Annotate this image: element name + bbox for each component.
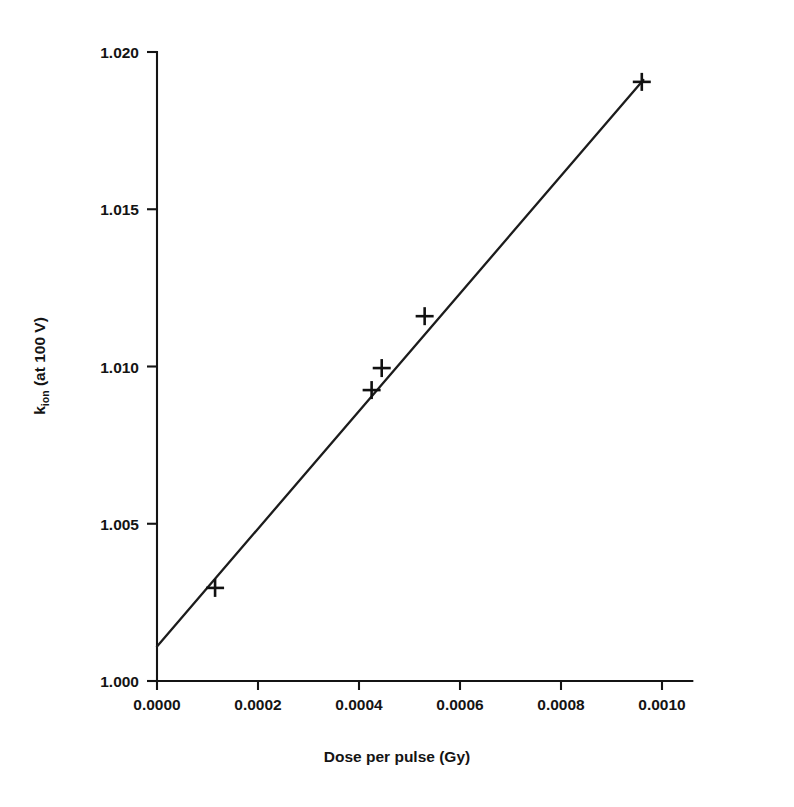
x-tick-label: 0.0006 [436,696,484,713]
scatter-plot-svg: 0.00000.00020.00040.00060.00080.0010 1.0… [0,0,794,807]
x-tick-label: 0.0010 [638,696,685,713]
x-tick-label: 0.0004 [335,696,383,713]
x-tick-label: 0.0008 [537,696,585,713]
y-tick-label: 1.015 [100,201,139,218]
y-tick-label: 1.010 [100,359,139,376]
chart-figure: 0.00000.00020.00040.00060.00080.0010 1.0… [0,0,794,807]
y-tick-label: 1.020 [100,44,139,61]
y-axis-title-rest: (at 100 V) [31,317,48,390]
y-tick-label: 1.005 [100,516,139,533]
x-tick-label: 0.0000 [133,696,180,713]
x-axis-title: Dose per pulse (Gy) [324,748,470,765]
y-axis-title-subscript: ion [39,390,51,406]
x-tick-label: 0.0002 [234,696,281,713]
y-tick-label: 1.000 [100,673,139,690]
